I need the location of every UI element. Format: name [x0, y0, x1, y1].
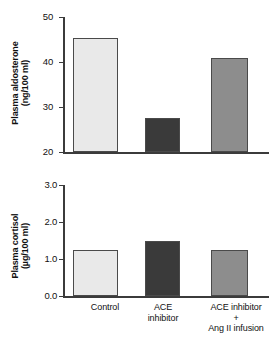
y-tick-label-0: 0.0	[25, 290, 57, 301]
y-tick-label-50: 50	[25, 11, 53, 22]
y-tick-label-1: 1.0	[25, 253, 57, 264]
figure-bar-charts: Plasma aldosterone (ng/100 ml) 50 40 30 …	[0, 0, 269, 346]
y-tick-1	[59, 259, 63, 260]
y-tick-50	[59, 17, 63, 18]
bar-cortisol-ace-inhibitor-ang2	[211, 250, 248, 296]
y-axis-line-cortisol	[63, 185, 65, 297]
y-tick-label-3: 3.0	[25, 179, 57, 190]
y-tick-40	[59, 62, 63, 63]
bar-aldosterone-ace-inhibitor-ang2	[211, 58, 248, 153]
y-tick-0	[59, 296, 63, 297]
y-axis-line-aldosterone	[63, 17, 65, 153]
x-label-ace-inhibitor-line1: ACE	[125, 302, 201, 313]
chart-panel-aldosterone: Plasma aldosterone (ng/100 ml) 50 40 30 …	[0, 0, 269, 170]
y-tick-label-30: 30	[25, 101, 53, 112]
y-tick-label-40: 40	[25, 56, 53, 67]
x-label-ace-inhibitor-line2: inhibitor	[125, 313, 201, 324]
x-label-ace-inhibitor-ang2-line1: ACE inhibitor	[193, 302, 269, 313]
x-axis-line-cortisol	[63, 296, 269, 298]
y-tick-20	[59, 152, 63, 153]
x-label-ace-inhibitor-ang2-line2: +	[193, 313, 269, 324]
bar-aldosterone-ace-inhibitor	[145, 118, 180, 152]
y-axis-title-line1: Plasma cortisol	[10, 213, 20, 278]
plot-area-aldosterone: 50 40 30 20	[63, 0, 269, 170]
x-label-control-line1: Control	[91, 302, 119, 312]
bar-cortisol-ace-inhibitor	[145, 241, 180, 296]
bar-cortisol-control	[73, 250, 118, 296]
y-axis-title-line1: Plasma aldosterone	[10, 41, 20, 124]
y-axis-title-line2: (µg/100 ml)	[20, 192, 30, 300]
y-tick-label-2: 2.0	[25, 216, 57, 227]
y-axis-title-aldosterone: Plasma aldosterone (ng/100 ml)	[10, 19, 30, 147]
y-tick-3	[59, 185, 63, 186]
y-axis-title-cortisol: Plasma cortisol (µg/100 ml)	[10, 192, 30, 300]
bar-aldosterone-control	[73, 38, 118, 152]
y-tick-30	[59, 107, 63, 108]
y-axis-title-line2: (ng/100 ml)	[20, 19, 30, 147]
y-tick-label-20: 20	[25, 146, 53, 157]
x-label-ace-inhibitor-ang2-line3: Ang II infusion	[193, 323, 269, 334]
y-tick-2	[59, 222, 63, 223]
x-label-ace-inhibitor: ACE inhibitor	[125, 302, 201, 323]
x-axis-category-labels: Control ACE inhibitor ACE inhibitor + An…	[63, 302, 263, 346]
x-axis-line-aldosterone	[63, 152, 269, 154]
x-label-ace-inhibitor-ang2: ACE inhibitor + Ang II infusion	[193, 302, 269, 334]
